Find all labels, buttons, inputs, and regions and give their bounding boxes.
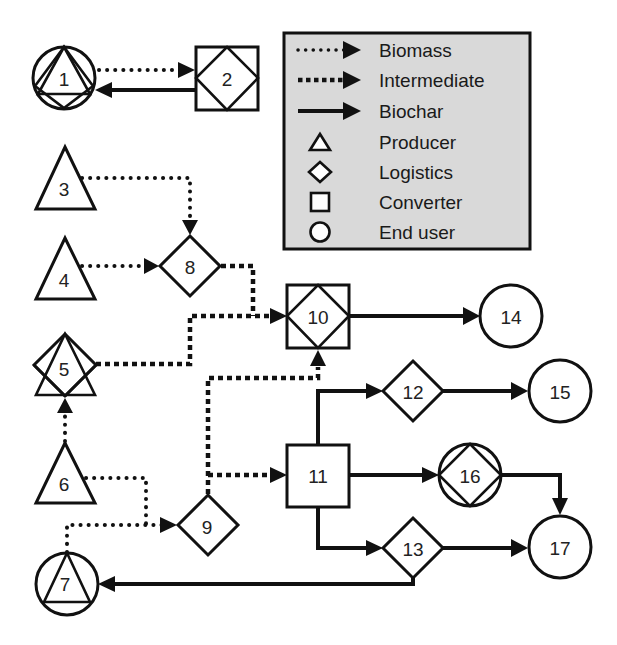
- arrowhead-icon: [182, 220, 198, 235]
- edge-13-to-7: [98, 576, 413, 592]
- arrowhead-icon: [366, 383, 383, 399]
- arrowhead-icon: [270, 308, 287, 324]
- node-7[interactable]: 7: [36, 553, 98, 615]
- node-label: 13: [402, 539, 423, 560]
- node-11[interactable]: 11: [287, 445, 349, 507]
- node-label: 11: [308, 466, 328, 487]
- arrowhead-icon: [98, 576, 115, 592]
- arrowhead-icon: [310, 350, 326, 366]
- node-label: 4: [59, 270, 70, 291]
- node-label: 10: [307, 307, 328, 328]
- edge-7-to-9: [67, 517, 177, 552]
- legend-label-producer: Producer: [379, 132, 457, 153]
- node-label: 8: [185, 257, 196, 278]
- edge-13-to-17: [443, 539, 528, 557]
- node-2[interactable]: 2: [196, 47, 258, 110]
- node-15[interactable]: 15: [529, 360, 591, 422]
- edge-6-to-5: [57, 398, 73, 441]
- square-icon: [311, 193, 329, 211]
- node-label: 16: [459, 466, 480, 487]
- node-label: 15: [549, 382, 570, 403]
- node-10[interactable]: 10: [287, 285, 349, 348]
- legend-label-end-user: End user: [379, 222, 456, 243]
- legend-label-intermediate: Intermediate: [379, 70, 485, 91]
- edge-2-to-1: [95, 82, 196, 98]
- legend-label-logistics: Logistics: [379, 162, 453, 183]
- node-label: 5: [59, 359, 70, 380]
- node-1[interactable]: 1: [33, 47, 95, 109]
- edge-8-to-10: [221, 266, 253, 316]
- legend-label-biochar: Biochar: [379, 101, 444, 122]
- edge-11-to-16: [349, 467, 439, 483]
- edge-4-to-8: [82, 258, 159, 274]
- edge-1-to-2: [99, 62, 195, 78]
- legend-label-converter: Converter: [379, 192, 463, 213]
- node-label: 9: [202, 517, 213, 538]
- arrowhead-icon: [160, 517, 177, 533]
- node-9[interactable]: 9: [178, 495, 238, 555]
- legend-label-biomass: Biomass: [379, 40, 452, 61]
- edge-16-to-17: [501, 475, 568, 515]
- arrowhead-icon: [366, 540, 383, 556]
- node-13[interactable]: 13: [383, 518, 443, 578]
- arrowhead-icon: [422, 467, 439, 483]
- edge-10-to-14: [349, 307, 480, 325]
- arrowhead-icon: [552, 498, 568, 515]
- node-5[interactable]: 5: [34, 334, 96, 396]
- node-12[interactable]: 12: [383, 361, 443, 421]
- node-16[interactable]: 16: [439, 444, 501, 506]
- node-14[interactable]: 14: [480, 285, 542, 347]
- arrowhead-icon: [511, 539, 528, 557]
- node-label: 12: [402, 382, 423, 403]
- arrowhead-icon: [57, 398, 73, 413]
- arrowhead-icon: [511, 382, 528, 400]
- edge-11-to-13: [318, 506, 383, 556]
- node-label: 1: [59, 69, 70, 90]
- node-4[interactable]: 4: [36, 238, 95, 299]
- legend: Biomass Intermediate Biochar Producer Lo…: [284, 33, 530, 249]
- node-label: 17: [549, 538, 570, 559]
- node-3[interactable]: 3: [36, 147, 95, 209]
- node-label: 6: [59, 474, 70, 495]
- node-17[interactable]: 17: [529, 516, 591, 578]
- node-label: 7: [60, 574, 71, 595]
- edge-11-to-12: [318, 383, 383, 445]
- node-label: 14: [500, 307, 522, 328]
- circle-icon: [311, 223, 330, 242]
- node-8[interactable]: 8: [160, 236, 220, 296]
- arrowhead-icon: [463, 307, 480, 325]
- node-label: 3: [59, 179, 70, 200]
- arrowhead-icon: [144, 258, 159, 274]
- node-label: 2: [222, 69, 233, 90]
- supply-chain-diagram: Biomass Intermediate Biochar Producer Lo…: [0, 0, 617, 645]
- arrowhead-icon: [178, 62, 195, 78]
- edge-3-to-8: [82, 178, 198, 235]
- arrowhead-icon: [95, 82, 112, 98]
- edge-9-to-11: [208, 467, 287, 483]
- node-6[interactable]: 6: [36, 443, 95, 503]
- edge-12-to-15: [443, 382, 528, 400]
- arrowhead-icon: [270, 467, 287, 483]
- edge-5-to-10: [96, 308, 287, 364]
